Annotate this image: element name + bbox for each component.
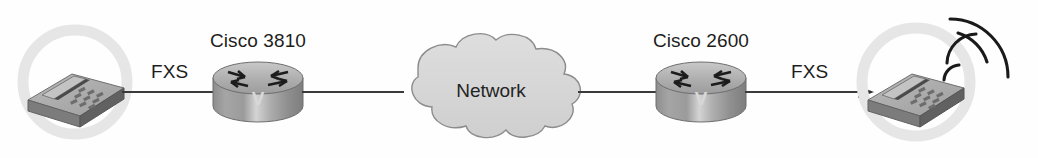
network-cloud-group: Network (412, 34, 581, 138)
phone-left-group (23, 30, 127, 134)
router-left-label: Cisco 3810 (210, 30, 306, 51)
router-right-icon: V (656, 62, 746, 122)
router-left-group: Cisco 3810 (210, 30, 306, 122)
network-diagram: FXS Cisco 3810 (0, 0, 1038, 158)
router-left-icon: V (213, 62, 303, 122)
router-right-group: Cisco 2600 V (653, 30, 749, 122)
router-right-label: Cisco 2600 (653, 30, 749, 51)
fxs-label-right: FXS (791, 61, 828, 82)
cloud-label: Network (456, 80, 526, 101)
phone-right-group (862, 19, 1008, 136)
link-router-right-phone-right (745, 86, 874, 98)
router-right-face-letter: V (695, 88, 708, 109)
router-left-face-letter: V (252, 88, 265, 109)
fxs-label-left: FXS (151, 61, 188, 82)
ring-wave-1 (944, 65, 959, 80)
diagram-canvas: FXS Cisco 3810 (0, 0, 1038, 158)
